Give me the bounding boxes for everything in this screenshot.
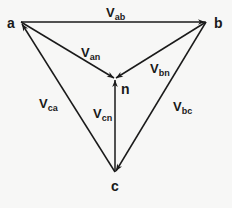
node-a-label: a: [7, 16, 15, 30]
label-v-cn-main: V: [93, 106, 102, 121]
diagram-lines: [0, 0, 232, 208]
phasor-diagram: a b n c Vab Van Vbn Vca Vcn Vbc: [0, 0, 232, 208]
label-v-bc: Vbc: [173, 100, 192, 116]
label-v-bc-sub: bc: [182, 106, 193, 116]
label-v-bn-sub: bn: [159, 68, 170, 78]
node-n-label: n: [121, 82, 130, 96]
node-b-label: b: [214, 16, 223, 30]
edge-ca-arrow: [22, 24, 115, 172]
label-v-ca-main: V: [39, 96, 48, 111]
label-v-ca: Vca: [39, 97, 58, 113]
label-v-an: Van: [81, 46, 100, 62]
node-c-label: c: [111, 179, 119, 193]
label-v-bn-main: V: [150, 61, 159, 76]
label-v-ab: Vab: [106, 6, 125, 22]
label-v-ab-main: V: [106, 5, 115, 20]
label-v-ab-sub: ab: [115, 12, 126, 22]
label-v-cn: Vcn: [93, 107, 112, 123]
label-v-cn-sub: cn: [102, 113, 113, 123]
label-v-an-main: V: [81, 45, 90, 60]
label-v-an-sub: an: [90, 52, 101, 62]
label-v-bn: Vbn: [150, 62, 170, 78]
label-v-bc-main: V: [173, 99, 182, 114]
label-v-ca-sub: ca: [48, 103, 58, 113]
